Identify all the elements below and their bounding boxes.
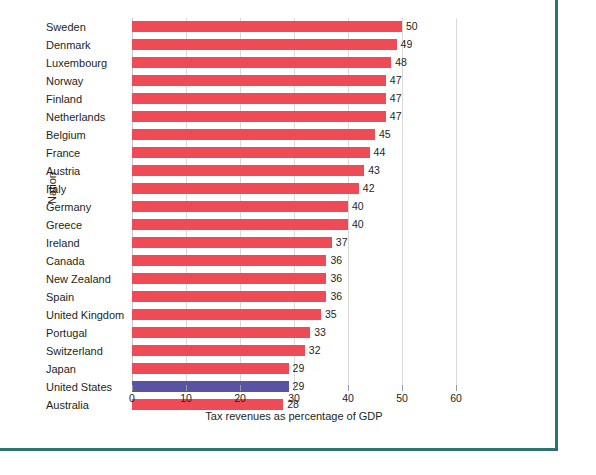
x-tick-label-0: 0 [117,392,147,404]
category-label-ireland: Ireland [46,234,132,252]
x-tick-20 [240,385,241,391]
bar-switzerland [132,345,305,356]
bar-row: 40 [132,216,456,234]
bar-row: 47 [132,72,456,90]
bar-value-label: 36 [330,253,342,267]
category-label-japan: Japan [46,360,132,378]
bar-new-zealand [132,273,326,284]
bar-value-label: 42 [363,181,375,195]
category-label-spain: Spain [46,288,132,306]
x-tick-label-30: 30 [279,392,309,404]
category-label-germany: Germany [46,198,132,216]
plot-area: 5049484747474544434240403736363635333229… [132,18,456,385]
x-tick-30 [294,385,295,391]
x-tick-label-40: 40 [333,392,363,404]
x-axis-title: Tax revenues as percentage of GDP [132,410,456,422]
bar-germany [132,201,348,212]
category-label-france: France [46,144,132,162]
frame-bottom-rule [0,448,558,451]
bar-value-label: 49 [401,37,413,51]
bar-value-label: 40 [352,217,364,231]
x-tick-label-10: 10 [171,392,201,404]
bar-value-label: 47 [390,109,402,123]
x-tick-label-20: 20 [225,392,255,404]
bar-row: 35 [132,306,456,324]
bar-value-label: 47 [390,73,402,87]
x-tick-label-50: 50 [387,392,417,404]
bar-row: 36 [132,288,456,306]
category-label-greece: Greece [46,216,132,234]
bar-sweden [132,21,402,32]
bar-row: 40 [132,198,456,216]
bar-value-label: 44 [374,145,386,159]
category-label-portugal: Portugal [46,324,132,342]
bar-ireland [132,237,332,248]
bar-portugal [132,327,310,338]
x-tick-10 [186,385,187,391]
bar-norway [132,75,386,86]
bar-united-states [132,381,289,392]
bar-united-kingdom [132,309,321,320]
bar-row: 36 [132,252,456,270]
bar-value-label: 50 [406,19,418,33]
bar-row: 44 [132,144,456,162]
bar-japan [132,363,289,374]
bar-denmark [132,39,397,50]
x-axis: 0102030405060 [132,385,456,386]
bar-greece [132,219,348,230]
bar-row: 48 [132,54,456,72]
bar-australia [132,399,283,410]
bar-france [132,147,370,158]
category-label-switzerland: Switzerland [46,342,132,360]
x-tick-60 [456,385,457,391]
bar-netherlands [132,111,386,122]
category-label-belgium: Belgium [46,126,132,144]
bar-row: 47 [132,90,456,108]
bar-value-label: 29 [293,361,305,375]
bar-row: 50 [132,18,456,36]
category-label-netherlands: Netherlands [46,108,132,126]
bar-canada [132,255,326,266]
bar-italy [132,183,359,194]
bar-belgium [132,129,375,140]
gridline-60 [456,18,457,385]
x-tick-0 [132,385,133,391]
category-label-denmark: Denmark [46,36,132,54]
category-label-luxembourg: Luxembourg [46,54,132,72]
category-label-canada: Canada [46,252,132,270]
bar-value-label: 40 [352,199,364,213]
x-tick-50 [402,385,403,391]
category-label-finland: Finland [46,90,132,108]
bar-luxembourg [132,57,391,68]
bar-value-label: 35 [325,307,337,321]
bar-value-label: 45 [379,127,391,141]
bar-value-label: 36 [330,289,342,303]
bar-austria [132,165,364,176]
bar-value-label: 37 [336,235,348,249]
bar-value-label: 33 [314,325,326,339]
bar-row: 32 [132,342,456,360]
bar-value-label: 47 [390,91,402,105]
bar-row: 29 [132,360,456,378]
x-tick-40 [348,385,349,391]
category-label-new-zealand: New Zealand [46,270,132,288]
category-label-italy: Italy [46,180,132,198]
bar-row: 45 [132,126,456,144]
bar-finland [132,93,386,104]
bar-value-label: 43 [368,163,380,177]
category-label-norway: Norway [46,72,132,90]
bar-row: 43 [132,162,456,180]
category-label-sweden: Sweden [46,18,132,36]
bar-rows: 5049484747474544434240403736363635333229… [132,18,456,385]
category-label-austria: Austria [46,162,132,180]
bar-row: 42 [132,180,456,198]
bar-chart-figure: Nation SwedenDenmarkLuxembourgNorwayFinl… [0,0,558,448]
bar-spain [132,291,326,302]
bar-value-label: 48 [395,55,407,69]
bar-row: 33 [132,324,456,342]
x-tick-label-60: 60 [441,392,471,404]
bar-row: 49 [132,36,456,54]
category-label-list: SwedenDenmarkLuxembourgNorwayFinlandNeth… [46,18,128,385]
bar-value-label: 36 [330,271,342,285]
bar-row: 47 [132,108,456,126]
